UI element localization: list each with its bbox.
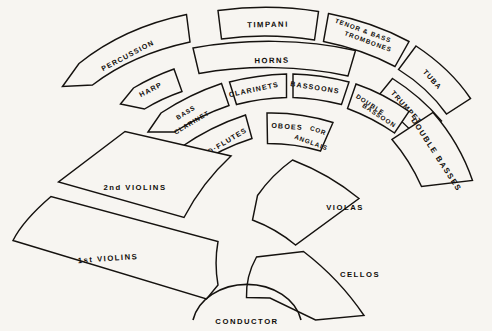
section-bassoons[interactable]: BASSOONS [290,74,349,105]
timpani-label: TIMPANI [247,20,289,30]
horns-label: HORNS [254,56,289,66]
cellos-label: CELLOS [340,270,380,279]
orchestra-seating-diagram: PERCUSSION TIMPANI TENOR & BASS TROMBONE… [0,0,492,331]
section-oboes-cor-anglais[interactable]: OBOES COR ANGLAIS [267,113,333,152]
seating-plan-svg: PERCUSSION TIMPANI TENOR & BASS TROMBONE… [0,0,492,331]
section-clarinets[interactable]: CLARINETS [228,74,286,105]
conductor-label: CONDUCTOR [215,317,278,326]
section-horns[interactable]: HORNS [193,41,356,76]
second-violins-label: 2nd VIOLINS [103,183,166,192]
violas-label: VIOLAS [326,203,364,212]
section-timpani[interactable]: TIMPANI [218,7,319,40]
section-harp[interactable]: HARP [121,69,183,109]
section-violas[interactable]: VIOLAS [253,160,364,245]
section-cellos[interactable]: CELLOS [246,252,380,321]
